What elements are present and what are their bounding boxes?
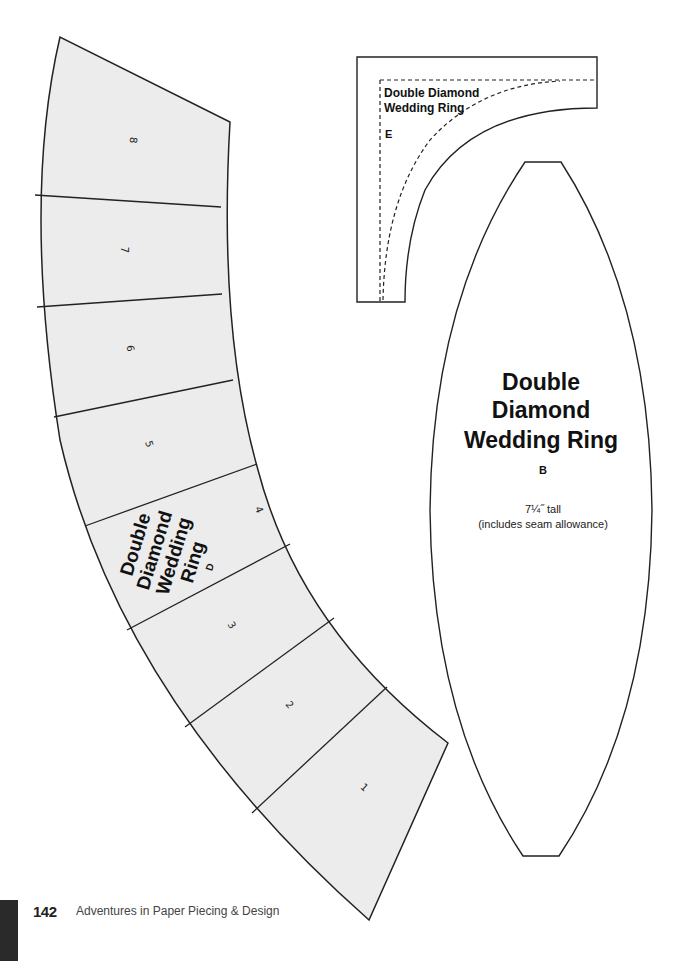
pattern-b-letter: B [539, 464, 547, 476]
pattern-e-title-2: Wedding Ring [384, 101, 464, 115]
pattern-b-seam-note: (includes seam allowance) [478, 518, 608, 530]
pattern-e-letter: E [385, 128, 392, 140]
segment-number-8: 8 [128, 137, 140, 144]
pattern-sheet: 8 7 6 5 4 3 2 1 Double Diamond Wedding R… [0, 0, 687, 961]
pattern-b-title-2: Diamond [492, 397, 590, 423]
pattern-b-title-1: Double [502, 369, 580, 395]
page-number: 142 [33, 903, 57, 920]
page-edge-tab [0, 900, 18, 961]
pattern-e-title-1: Double Diamond [384, 86, 479, 100]
pattern-b-oval: Double Diamond Wedding Ring B 7¼˝ tall (… [430, 162, 652, 856]
pattern-b-title-3: Wedding Ring [464, 427, 618, 453]
segment-number-7: 7 [119, 247, 130, 253]
pattern-b-size-note: 7¼˝ tall [525, 503, 561, 515]
book-title: Adventures in Paper Piecing & Design [76, 904, 279, 918]
